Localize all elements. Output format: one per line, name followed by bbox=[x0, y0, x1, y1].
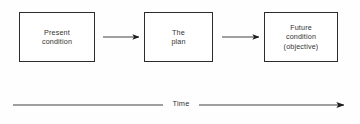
node-the-plan-line-1: The bbox=[172, 28, 185, 37]
time-axis-label: Time bbox=[165, 98, 197, 109]
diagram-canvas: Present condition The plan Future condit… bbox=[0, 0, 360, 124]
node-the-plan-line-2: plan bbox=[171, 37, 185, 46]
node-present-condition: Present condition bbox=[19, 12, 95, 62]
node-future-condition: Future condition (objective) bbox=[264, 12, 338, 62]
node-present-condition-line-2: condition bbox=[42, 37, 72, 46]
node-future-condition-line-3: (objective) bbox=[284, 42, 319, 51]
node-future-condition-line-2: condition bbox=[286, 32, 316, 41]
node-future-condition-line-1: Future bbox=[290, 23, 312, 32]
node-the-plan: The plan bbox=[144, 12, 213, 62]
node-present-condition-line-1: Present bbox=[44, 28, 70, 37]
